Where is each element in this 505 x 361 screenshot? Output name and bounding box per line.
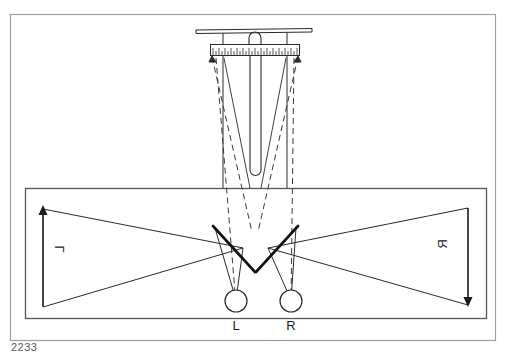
ray-solid-right <box>268 208 468 305</box>
graduated-scale <box>211 45 300 56</box>
arrow-left <box>39 205 48 307</box>
mirror-left <box>213 226 255 272</box>
figure-caption: 2233 <box>11 341 37 353</box>
ray-solid-inner <box>224 58 286 188</box>
arrow-right <box>464 208 473 307</box>
septum-walls <box>223 56 287 188</box>
ray-dashed-right <box>258 57 298 305</box>
figure-root: L R L R 2233 <box>0 0 505 361</box>
arrow-right-label: R <box>435 239 450 248</box>
eye-left <box>225 290 247 312</box>
arrow-left-label: L <box>52 245 67 252</box>
inner-frame <box>26 189 487 319</box>
handle-arch <box>249 32 261 44</box>
plate-support-posts <box>223 33 287 45</box>
stereoscope-diagram: L R L R <box>0 0 505 361</box>
top-plate <box>196 29 312 34</box>
arrow-right-label-text: R <box>435 239 450 248</box>
u-tube <box>250 56 261 176</box>
eye-right <box>280 290 302 312</box>
eye-left-label: L <box>232 318 239 333</box>
ray-dashed-left <box>212 57 252 305</box>
arrow-left-label-text: L <box>52 245 67 252</box>
ray-solid-left <box>43 209 243 307</box>
eye-right-label: R <box>286 318 295 333</box>
